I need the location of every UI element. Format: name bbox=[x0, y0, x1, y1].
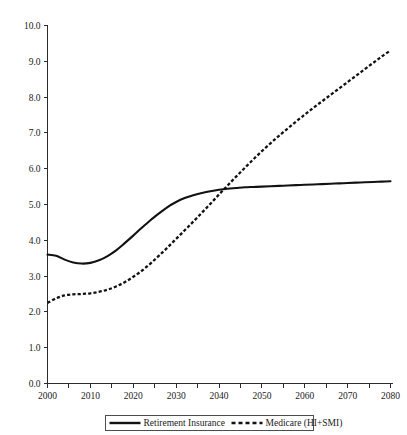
chart-legend: Retirement InsuranceMedicare (HI+SMI) bbox=[106, 416, 343, 431]
x-tick-label: 2030 bbox=[167, 391, 186, 401]
x-tick-label: 2010 bbox=[81, 391, 100, 401]
series-group bbox=[48, 51, 391, 303]
series-line-medicare-hi-smi bbox=[48, 51, 391, 303]
y-tick-label: 10.0 bbox=[24, 21, 41, 31]
x-axis: 200020102020203020402050206020702080 bbox=[38, 384, 400, 401]
y-tick-label: 6.0 bbox=[29, 164, 41, 174]
y-tick-label: 4.0 bbox=[29, 236, 41, 246]
y-tick-label: 9.0 bbox=[29, 57, 41, 67]
x-tick-label: 2070 bbox=[338, 391, 357, 401]
x-tick-label: 2060 bbox=[295, 391, 314, 401]
y-tick-label: 7.0 bbox=[29, 128, 41, 138]
line-chart: 0.01.02.03.04.05.06.07.08.09.010.0 20002… bbox=[0, 0, 407, 435]
y-tick-label: 0.0 bbox=[29, 379, 41, 389]
x-tick-label: 2040 bbox=[210, 391, 229, 401]
y-tick-group: 0.01.02.03.04.05.06.07.08.09.010.0 bbox=[24, 21, 48, 389]
chart-container: 0.01.02.03.04.05.06.07.08.09.010.0 20002… bbox=[0, 0, 407, 435]
x-tick-label: 2020 bbox=[124, 391, 143, 401]
y-tick-label: 3.0 bbox=[29, 272, 41, 282]
y-tick-label: 5.0 bbox=[29, 200, 41, 210]
x-tick-label: 2050 bbox=[252, 391, 271, 401]
x-tick-label: 2080 bbox=[381, 391, 400, 401]
x-tick-label: 2000 bbox=[38, 391, 57, 401]
y-axis: 0.01.02.03.04.05.06.07.08.09.010.0 bbox=[24, 21, 48, 389]
legend-label-retirement-insurance: Retirement Insurance bbox=[144, 418, 226, 428]
y-tick-label: 8.0 bbox=[29, 93, 41, 103]
y-tick-label: 2.0 bbox=[29, 307, 41, 317]
legend-label-medicare: Medicare (HI+SMI) bbox=[266, 418, 343, 429]
series-line-retirement-insurance bbox=[48, 181, 391, 263]
y-tick-label: 1.0 bbox=[29, 343, 41, 353]
x-tick-group: 200020102020203020402050206020702080 bbox=[38, 384, 400, 401]
